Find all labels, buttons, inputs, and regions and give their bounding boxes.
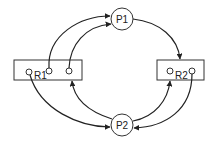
- edge-r1-p2-assignment: [30, 75, 110, 127]
- edge-p2-r2: [133, 81, 170, 121]
- resource-allocation-graph: R1 R2 P1 P2: [0, 0, 214, 145]
- p1-label: P1: [116, 14, 129, 25]
- p2-label: P2: [116, 120, 129, 131]
- r1-label: R1: [34, 70, 47, 81]
- resource-r2: R2: [157, 60, 204, 81]
- process-p1: P1: [111, 8, 133, 30]
- r1-instance-1: [26, 69, 32, 75]
- r2-instance-1: [167, 68, 173, 74]
- r2-label: R2: [175, 70, 188, 81]
- r1-instance-3: [66, 68, 72, 74]
- r1-instance-2: [46, 68, 52, 74]
- r2-instance-2: [189, 68, 195, 74]
- edge-p2-r1: [72, 81, 112, 119]
- edge-p1-r2: [133, 19, 180, 59]
- resource-r1: R1: [14, 60, 82, 81]
- process-p2: P2: [111, 114, 133, 136]
